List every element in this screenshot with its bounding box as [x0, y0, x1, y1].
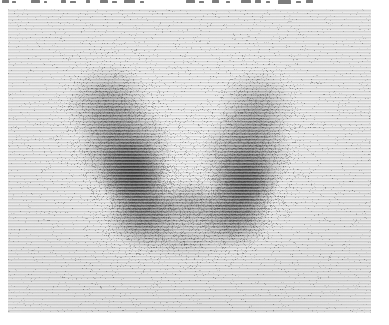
- annotation-ink-fragment: [31, 0, 40, 3]
- annotation-ink-fragment: [296, 1, 301, 3]
- annotation-ink-fragment: [100, 0, 108, 3]
- annotation-ink-fragment: [241, 0, 251, 3]
- uptake-region-inferior-spill: [126, 213, 242, 261]
- annotation-ink-fragment: [186, 0, 195, 3]
- annotation-ink-fragment: [140, 1, 144, 3]
- annotation-ink-fragment: [2, 0, 9, 3]
- annotation-ink-fragment: [124, 0, 135, 3]
- annotation-ink-fragment: [12, 1, 16, 3]
- annotation-strip: [0, 0, 389, 7]
- annotation-ink-fragment: [226, 1, 230, 3]
- annotation-ink-fragment: [306, 0, 313, 3]
- scan-image-panel: [8, 9, 371, 313]
- annotation-ink-fragment: [278, 0, 291, 4]
- thyroid-scintigram-figure: [0, 0, 389, 325]
- annotation-ink-fragment: [44, 1, 47, 3]
- annotation-ink-fragment: [255, 0, 261, 3]
- film-base: [8, 9, 371, 313]
- annotation-ink-fragment: [112, 1, 117, 3]
- annotation-ink-fragment: [61, 0, 66, 3]
- annotation-ink-fragment: [266, 1, 270, 3]
- annotation-ink-fragment: [86, 0, 90, 3]
- annotation-ink-fragment: [212, 0, 219, 3]
- annotation-ink-fragment: [70, 1, 76, 3]
- annotation-ink-fragment: [199, 1, 204, 3]
